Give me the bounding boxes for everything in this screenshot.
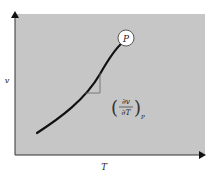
slope-subscript: P bbox=[140, 114, 145, 120]
diagram-canvas: P ( ∂v ∂T ) P v T bbox=[0, 0, 215, 178]
plot-panel bbox=[15, 14, 205, 155]
slope-denominator: ∂T bbox=[122, 108, 132, 117]
slope-numerator: ∂v bbox=[122, 97, 131, 106]
y-axis-label: v bbox=[5, 76, 10, 85]
slope-paren-right: ) bbox=[134, 97, 141, 118]
slope-paren-left: ( bbox=[111, 97, 118, 118]
point-label: P bbox=[122, 34, 130, 44]
x-axis-label: T bbox=[101, 162, 108, 172]
